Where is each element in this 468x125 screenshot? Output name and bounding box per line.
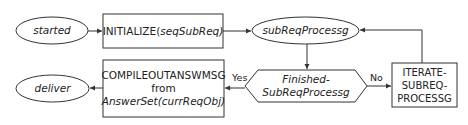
deliver-node-label: deliver xyxy=(16,75,89,102)
compile-label-line3: AnswerSet(currReqObj) xyxy=(102,95,225,108)
compile-label-line2: from xyxy=(151,82,175,95)
edge-iterate-subreq xyxy=(360,30,422,63)
iterate-label-line2: SUBREQ- xyxy=(402,79,448,92)
finished-label-line1: Finished- xyxy=(282,73,330,86)
subreq-node-label: subReqProcessg xyxy=(252,17,359,44)
initialize-label-main: INITIALIZE( xyxy=(103,25,161,38)
initialize-label-arg: seqSubReq) xyxy=(160,25,223,38)
initialize-node-label: INITIALIZE(seqSubReq) xyxy=(103,14,223,48)
compile-node-label: COMPILEOUTANSWMSG from AnswerSet(currReq… xyxy=(103,60,224,117)
iterate-label-line1: ITERATE- xyxy=(402,66,446,79)
edge-label-yes: Yes xyxy=(232,72,247,83)
flowchart-canvas: started INITIALIZE(seqSubReq) subReqProc… xyxy=(0,0,468,125)
compile-label-line1: COMPILEOUTANSWMSG xyxy=(101,69,225,82)
finished-label-line2: SubReqProcessg xyxy=(262,86,349,99)
finished-node-label: Finished- SubReqProcessg xyxy=(252,70,360,102)
edge-label-no: No xyxy=(370,72,383,83)
iterate-node-label: ITERATE- SUBREQ- PROCESSG xyxy=(392,63,457,107)
started-node-label: started xyxy=(16,17,88,44)
iterate-label-line3: PROCESSG xyxy=(397,92,452,105)
